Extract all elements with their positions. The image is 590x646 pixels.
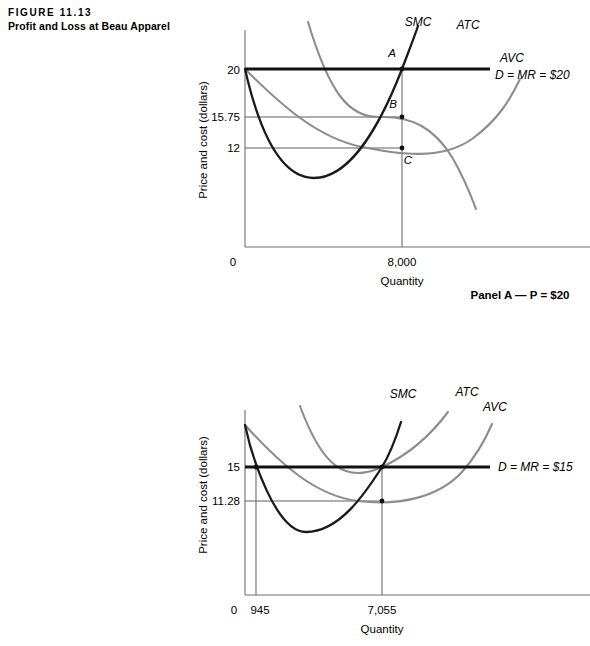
x-origin-label-panel-b: 0 [231, 604, 237, 616]
x-axis-title-panel-a: Quantity [381, 275, 424, 287]
point-a-marker [400, 67, 405, 72]
point-b-marker [400, 115, 405, 120]
avc-curve-panel-b [245, 424, 492, 502]
x-tick-945: 945 [250, 604, 269, 616]
shutdown-point-marker [254, 465, 259, 470]
y-axis-title-panel-a: Price and cost (dollars) [197, 81, 209, 199]
smc-label-panel-b: SMC [390, 387, 417, 401]
point-label-b: B [389, 98, 397, 110]
panel-a-caption: Panel A — P = $20 [471, 289, 570, 301]
output-point-marker [380, 465, 385, 470]
x-tick-8000: 8,000 [388, 256, 417, 268]
atc-label-panel-b: ATC [454, 385, 478, 399]
demand-mr-label-panel-b: D = MR = $15 [498, 460, 573, 474]
y-tick-15: 15 [227, 461, 240, 473]
y-tick-20: 20 [227, 64, 240, 76]
atc-label-panel-a: ATC [455, 18, 479, 32]
figure-number: FIGURE 11.13 [8, 6, 178, 19]
smc-curve-panel-b [245, 422, 401, 532]
avc-label-panel-a: AVC [499, 51, 524, 65]
demand-mr-label-panel-a: D = MR = $20 [495, 68, 570, 82]
x-origin-label-panel-a: 0 [230, 256, 236, 268]
avc-point-marker [380, 499, 385, 504]
figure-title: Profit and Loss at Beau Apparel [8, 20, 178, 33]
y-axis-title-panel-b: Price and cost (dollars) [197, 436, 209, 554]
y-tick-1575: 15.75 [211, 111, 240, 123]
x-tick-7055: 7,055 [368, 604, 397, 616]
atc-curve-panel-b [300, 406, 448, 473]
y-tick-12: 12 [227, 142, 240, 154]
panel-a-chart: A B C SMC ATC AVC D = MR = $20 20 15.75 … [190, 0, 590, 320]
avc-label-panel-b: AVC [482, 400, 507, 414]
point-label-c: C [404, 154, 413, 166]
panel-b-chart: SMC ATC AVC D = MR = $15 15 11.28 0 945 … [190, 380, 590, 646]
figure-caption-block: FIGURE 11.13 Profit and Loss at Beau App… [8, 6, 178, 33]
y-tick-1128: 11.28 [212, 495, 240, 507]
point-c-marker [400, 146, 405, 151]
point-label-a: A [387, 47, 396, 59]
smc-label-panel-a: SMC [405, 15, 432, 29]
x-axis-title-panel-b: Quantity [361, 623, 404, 635]
